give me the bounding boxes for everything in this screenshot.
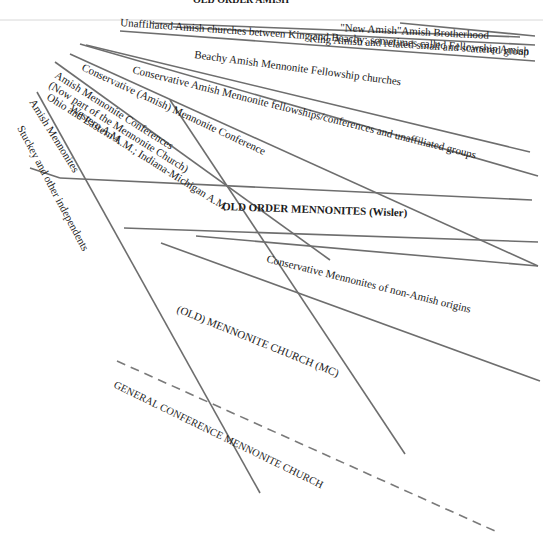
mennonite-amish-family-tree-diagram: OLD ORDER AMISH "New Amish"Amish Brother… <box>0 0 543 533</box>
line-conservative-non-amish <box>161 243 540 381</box>
label-general-conference: GENERAL CONFERENCE MENNONITE CHURCH <box>112 379 325 491</box>
title-old-order-amish: OLD ORDER AMISH <box>193 0 289 5</box>
line-general-conference-dashed <box>117 361 495 531</box>
label-old-order-mennonites: OLD ORDER MENNONITES (Wisler) <box>222 200 408 219</box>
label-old-mennonite-church: (OLD) MENNONITE CHURCH (MC) <box>175 303 341 380</box>
line-wisler-lower-1 <box>124 228 538 242</box>
branch-labels: "New Amish"Amish Brotherhood King Amish … <box>15 16 530 490</box>
label-beachy: Beachy Amish Mennonite Fellowship church… <box>194 48 402 87</box>
line-old-order-mennonites <box>60 178 532 200</box>
label-conservative-non-amish: Conservative Mennonites of non-Amish ori… <box>266 252 473 314</box>
